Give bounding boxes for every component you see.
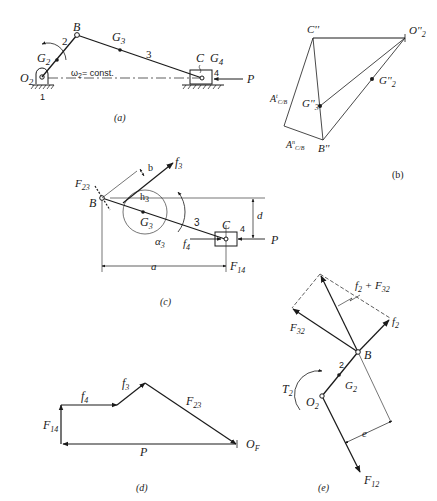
caption-e: (e) (318, 482, 330, 494)
link-3-fbd (102, 198, 225, 239)
label-p-fbd: P (270, 233, 279, 247)
label-alpha3: α3 (155, 235, 165, 250)
label-b: B (73, 20, 81, 34)
vector-f2-plus-f32 (321, 276, 358, 352)
ground-o2 (31, 68, 54, 89)
label-f23-poly: F23 (185, 394, 201, 410)
label-f3: f3 (175, 155, 182, 171)
label-dim-d: d (257, 209, 263, 221)
label-g3-pp: G''3 (302, 97, 319, 112)
panel-e-free-body-link2: f2 + F32 F32 f2 B 2 G2 T2 O2 e F12 (e) (282, 274, 399, 494)
label-p-poly: P (139, 445, 148, 459)
vector-c-b (313, 38, 323, 140)
label-g2: G2 (37, 51, 51, 67)
vector-at-cb (284, 38, 313, 126)
label-link-3: 3 (146, 48, 152, 60)
caption-b: (b) (392, 169, 404, 181)
label-c: C (196, 51, 205, 65)
panel-b-acceleration-polygon: C'' O''2 G''2 G''3 B'' AtC/B AnC/B (b) (269, 23, 426, 181)
label-f2: f2 (392, 315, 399, 330)
pivot-o2-e (320, 394, 324, 398)
label-dim-e: e (362, 427, 367, 439)
label-dim-b: b (148, 162, 153, 173)
label-f14-poly: F14 (42, 418, 58, 434)
label-g2-pp: G''2 (379, 74, 396, 89)
pin-b-e (356, 350, 361, 355)
dimension-b (140, 169, 144, 176)
label-link-4: 4 (214, 68, 219, 78)
label-p: P (246, 72, 255, 86)
label-dim-a: a (151, 260, 157, 272)
panel-a-mechanism: B 2 G2 G3 3 C G4 4 P O2 1 ω2= const. (a) (20, 20, 255, 124)
label-o2: O2 (20, 71, 34, 87)
label-f32: F32 (289, 321, 305, 336)
label-f3-poly: f3 (122, 376, 129, 392)
panel-c-free-body-link3: F23 B b f3 h3 G3 3 α3 C 4 d f4 P a F14 (… (74, 155, 279, 308)
label-f14: F14 (229, 259, 245, 275)
label-o2-pp: O''2 (409, 24, 426, 39)
caption-d: (d) (136, 482, 148, 494)
label-h3: h3 (140, 191, 149, 204)
label-c-pp: C'' (307, 23, 320, 35)
vector-o2-b (323, 38, 405, 140)
label-link-3-fbd: 3 (194, 217, 200, 228)
label-b-e: B (364, 348, 372, 362)
g2-accel-point (370, 77, 374, 81)
label-g3: G3 (112, 30, 126, 46)
label-at-cb: AtC/B (269, 93, 287, 105)
label-f4: f4 (183, 237, 190, 252)
label-g4: G4 (210, 51, 224, 67)
vector-f2 (358, 320, 389, 352)
dimension-e (345, 421, 392, 443)
label-an-cb: AnC/B (285, 139, 305, 151)
label-link-2: 2 (62, 35, 68, 47)
label-ground: 1 (40, 92, 45, 102)
label-link-2-e: 2 (339, 360, 344, 370)
caption-a: (a) (114, 112, 126, 124)
panel-d-force-polygon: f4 f3 F23 F14 P OF (d) (42, 376, 260, 494)
g3-point-fbd (141, 210, 145, 214)
g2-point-fbd (337, 373, 341, 377)
label-f4-poly: f4 (81, 389, 88, 405)
label-o2-e: O2 (306, 395, 319, 411)
g3-point (118, 48, 122, 52)
figure-canvas: B 2 G2 G3 3 C G4 4 P O2 1 ω2= const. (a)… (0, 0, 437, 501)
label-g2-e: G2 (345, 379, 357, 394)
vector-o2-g3 (320, 38, 405, 106)
vector-f23 (145, 383, 236, 444)
label-f12: F12 (363, 473, 379, 489)
label-f23: F23 (74, 177, 90, 192)
label-omega: ω2= const. (71, 68, 114, 79)
label-b-pp: B'' (318, 142, 330, 154)
label-b-fbd: B (89, 196, 97, 210)
label-of: OF (246, 437, 260, 453)
label-g3-fbd: G3 (140, 215, 153, 231)
caption-c: (c) (160, 296, 172, 308)
vector-f12 (322, 396, 360, 472)
pin-c (200, 76, 204, 80)
label-link-4-fbd: 4 (240, 224, 245, 234)
label-c-fbd: C (222, 218, 231, 232)
vector-an-cb (284, 126, 323, 140)
g2-point (55, 58, 59, 62)
label-t2: T2 (282, 382, 293, 398)
label-f2-plus-f32: f2 + F32 (355, 279, 390, 294)
